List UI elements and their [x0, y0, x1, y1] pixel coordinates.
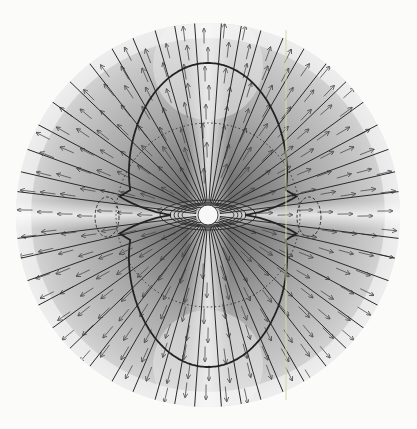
star-disk: [198, 205, 218, 225]
velocity-arrow: [203, 264, 204, 279]
dipole-field-diagram: [0, 0, 417, 429]
field-plot: [0, 0, 417, 429]
